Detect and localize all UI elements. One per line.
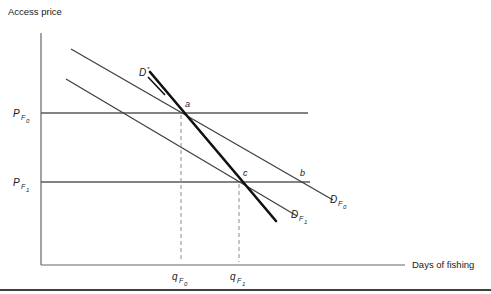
point-label-c: c [243, 168, 248, 178]
y-axis-title: Access price [8, 6, 62, 17]
curve-df0-base: D [330, 194, 337, 205]
demand-curve-df0 [71, 49, 333, 200]
access-price-demand-diagram: Access price Days of fishing P F 0 P F 1… [0, 0, 491, 294]
x-tick-qf0-sub2: 0 [184, 281, 188, 287]
y-tick-pf0-sub2: 0 [26, 118, 30, 124]
point-label-a: a [185, 99, 190, 109]
x-tick-label-qf0: q F 0 [172, 271, 188, 287]
curve-dstar-base: D [139, 67, 146, 78]
y-tick-label-pf0: P F 0 [13, 108, 30, 124]
y-tick-pf1-sub2: 1 [26, 187, 29, 193]
x-tick-qf0-base: q [172, 271, 178, 282]
curve-df1-sub2: 1 [304, 219, 307, 225]
x-tick-qf1-base: q [230, 271, 236, 282]
curve-label-df1: D F 1 [291, 209, 307, 225]
demand-curve-d-star [150, 72, 276, 221]
point-label-b: b [300, 168, 305, 178]
curve-label-df0: D F 0 [330, 194, 347, 210]
curve-df1-base: D [291, 209, 298, 220]
y-tick-pf0-base: P [13, 108, 20, 119]
diagram-canvas: Access price Days of fishing P F 0 P F 1… [0, 0, 491, 294]
x-tick-qf1-sub2: 1 [242, 281, 245, 287]
x-tick-label-qf1: q F 1 [230, 271, 245, 287]
y-tick-label-pf1: P F 1 [13, 177, 29, 193]
curve-df0-sub2: 0 [343, 204, 347, 210]
x-axis-title: Days of fishing [412, 259, 474, 270]
curve-label-d-star: D * [139, 66, 150, 78]
y-tick-pf1-base: P [13, 177, 20, 188]
